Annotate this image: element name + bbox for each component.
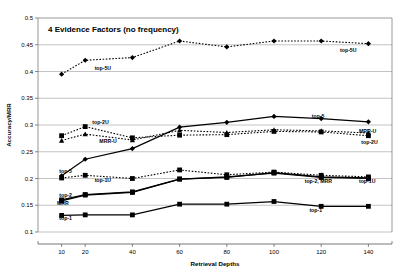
chart-container: 0.10.150.20.250.30.350.40.450.5102040608… — [0, 0, 410, 275]
y-axis-tick-label: 0.5 — [25, 15, 34, 21]
x-axis-tick-label: 10 — [58, 249, 65, 255]
annotation-top1-right: top-1 — [309, 207, 322, 213]
data-point-mrr-u — [59, 138, 64, 143]
data-point-top-1u — [59, 176, 64, 181]
annotation-mrr-left: MRR — [57, 200, 69, 206]
data-point-top-5u — [59, 72, 64, 77]
data-point-top-5 — [271, 114, 276, 119]
annotation-top5u-right: top-5U — [340, 47, 357, 53]
annotation-top2-left: top-2 — [59, 192, 72, 198]
data-point-top-1u — [83, 173, 88, 178]
data-point-top-5u — [83, 58, 88, 63]
data-point-top-1 — [177, 202, 182, 207]
data-point-top-2u — [83, 124, 88, 129]
chart-title: 4 Evidence Factors (no frequency) — [48, 25, 179, 34]
annotation-top5u-left: top-5U — [95, 65, 112, 71]
x-axis-tick-label: 140 — [363, 249, 374, 255]
y-axis-tick-label: 0.3 — [25, 122, 34, 128]
data-point-top-1 — [130, 212, 135, 217]
y-axis-tick-label: 0.1 — [25, 229, 34, 235]
data-point-mrr — [83, 193, 88, 198]
data-point-top-5 — [130, 146, 135, 151]
data-point-top-1 — [366, 204, 371, 209]
annotation-top2-mrr-right: top-2, MRR — [305, 178, 333, 184]
data-point-top-5 — [224, 120, 229, 125]
x-axis-title: Retrieval Depths — [191, 260, 240, 267]
data-point-mrr — [130, 190, 135, 195]
y-axis-tick-label: 0.25 — [21, 149, 33, 155]
data-point-top-5 — [366, 119, 371, 124]
data-point-mrr — [272, 171, 277, 176]
x-axis-tick-label: 40 — [129, 249, 136, 255]
data-point-top-1 — [224, 202, 229, 207]
data-point-top-1 — [83, 212, 88, 217]
y-axis-tick-label: 0.2 — [25, 176, 34, 182]
data-point-top-1u — [177, 168, 182, 173]
x-axis-tick-label: 100 — [269, 249, 280, 255]
annotation-top1u-right: top-1U — [359, 178, 376, 184]
data-point-top-5u — [130, 55, 135, 60]
annotation-top1u-left: top-1U — [95, 177, 112, 183]
data-point-top-5u — [271, 38, 276, 43]
x-axis-tick-label: 120 — [316, 249, 327, 255]
annotation-top2u-left: top-2U — [92, 119, 109, 125]
y-axis-title: Accuracy/MRR — [5, 103, 12, 147]
annotation-mrru-left: MRR-U — [99, 138, 117, 144]
x-axis-tick-label: 60 — [176, 249, 183, 255]
data-point-top-5u — [177, 38, 182, 43]
data-point-top-2u — [177, 133, 182, 138]
line-chart: 0.10.150.20.250.30.350.40.450.5102040608… — [0, 0, 410, 275]
annotation-top1-left: top-1 — [59, 215, 72, 221]
y-axis-tick-label: 0.35 — [21, 95, 33, 101]
annotation-mrru-right: MRR-U — [359, 128, 377, 134]
data-point-top-5u — [224, 44, 229, 49]
data-point-top-5u — [319, 38, 324, 43]
annotation-top2u-right: top-2U — [361, 139, 378, 145]
annotation-top5-right: top-5 — [312, 113, 325, 119]
y-axis-tick-label: 0.15 — [21, 202, 33, 208]
data-point-mrr — [224, 174, 229, 179]
data-point-top-2u — [59, 133, 64, 138]
annotation-top5-left: top-5 — [59, 168, 72, 174]
data-point-top-1u — [130, 176, 135, 181]
data-point-top-5u — [366, 41, 371, 46]
data-point-top-1 — [272, 199, 277, 204]
data-point-mrr — [177, 177, 182, 182]
x-axis-tick-label: 20 — [82, 249, 89, 255]
x-axis-tick-label: 80 — [223, 249, 230, 255]
y-axis-tick-label: 0.45 — [21, 42, 33, 48]
y-axis-tick-label: 0.4 — [25, 69, 34, 75]
